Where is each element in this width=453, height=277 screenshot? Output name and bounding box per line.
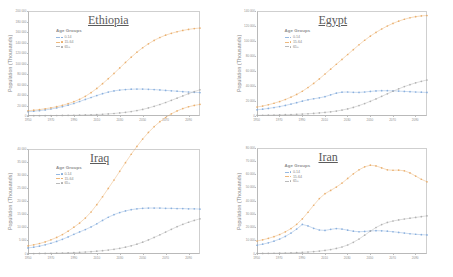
chart-panel-iran: Population (Thousands)Iran010 00020 0003… [227, 139, 453, 277]
series-marker-65+ [84, 114, 86, 116]
series-marker-65+ [62, 252, 64, 254]
series-marker-15-64 [199, 103, 201, 105]
series-marker-65+ [307, 251, 309, 253]
series-marker-15-64 [84, 217, 86, 219]
series-marker-65+ [50, 115, 52, 117]
series-marker-15-64 [329, 189, 331, 191]
legend-marker-dot-icon [290, 171, 292, 173]
series-marker-15-64 [426, 15, 428, 17]
series-marker-65+ [193, 219, 195, 221]
series-marker-0-14 [84, 228, 86, 230]
series-marker-0-14 [403, 91, 405, 93]
series-marker-0-14 [199, 92, 201, 94]
series-marker-0-14 [307, 225, 309, 227]
series-marker-0-14 [159, 207, 161, 209]
series-marker-0-14 [79, 231, 81, 233]
series-marker-15-64 [352, 49, 354, 51]
series-marker-0-14 [96, 222, 98, 224]
series-marker-65+ [392, 220, 394, 222]
series-marker-0-14 [301, 100, 303, 102]
series-marker-0-14 [363, 230, 365, 232]
series-marker-65+ [33, 252, 35, 254]
legend-item-label: 15-64 [293, 175, 302, 179]
series-marker-65+ [73, 251, 75, 253]
legend-marker-dot-icon [290, 180, 292, 182]
series-marker-15-64 [50, 107, 52, 109]
chart-panel-ethiopia: Population (Thousands)Ethiopia020 00040 … [0, 0, 227, 139]
series-marker-15-64 [375, 32, 377, 34]
series-marker-15-64 [119, 170, 121, 172]
series-marker-0-14 [273, 107, 275, 109]
legend-title: Age Groups [56, 165, 82, 170]
series-marker-65+ [176, 225, 178, 227]
legend-line-swatch-icon [56, 37, 60, 38]
series-marker-0-14 [375, 90, 377, 92]
series-marker-0-14 [153, 207, 155, 209]
series-marker-15-64 [33, 243, 35, 245]
series-marker-15-64 [182, 30, 184, 32]
series-marker-15-64 [113, 73, 115, 75]
series-marker-0-14 [278, 238, 280, 240]
legend-item-65+[interactable]: 65+ [56, 181, 82, 186]
series-marker-65+ [176, 97, 178, 99]
series-marker-15-64 [261, 105, 263, 107]
legend-item-65+[interactable]: 65+ [285, 44, 311, 49]
series-marker-0-14 [278, 106, 280, 108]
series-marker-15-64 [318, 78, 320, 80]
series-marker-15-64 [295, 223, 297, 225]
series-marker-15-64 [136, 145, 138, 147]
legend-line-swatch-icon [285, 181, 289, 182]
series-marker-15-64 [414, 175, 416, 177]
series-marker-65+ [352, 241, 354, 243]
series-marker-15-64 [335, 63, 337, 65]
series-marker-65+ [301, 113, 303, 115]
series-marker-15-64 [295, 94, 297, 96]
series-marker-15-64 [67, 103, 69, 105]
series-marker-15-64 [420, 178, 422, 180]
legend-item-label: 65+ [64, 181, 70, 185]
series-marker-0-14 [170, 207, 172, 209]
series-marker-65+ [273, 252, 275, 254]
series-marker-65+ [363, 234, 365, 236]
series-marker-0-14 [159, 89, 161, 91]
legend-line-swatch-icon [285, 37, 289, 38]
legend-item-65+[interactable]: 65+ [56, 44, 82, 49]
series-marker-65+ [165, 231, 167, 233]
series-marker-0-14 [107, 216, 109, 218]
series-line-65+ [28, 218, 200, 253]
series-marker-15-64 [392, 23, 394, 25]
series-marker-0-14 [301, 223, 303, 225]
series-marker-65+ [261, 252, 263, 254]
series-marker-65+ [79, 251, 81, 253]
series-marker-15-64 [79, 98, 81, 100]
series-marker-15-64 [142, 138, 144, 140]
series-marker-0-14 [386, 90, 388, 92]
series-marker-15-64 [329, 68, 331, 70]
series-marker-0-14 [165, 90, 167, 92]
series-marker-0-14 [335, 92, 337, 94]
series-marker-15-64 [375, 165, 377, 167]
series-marker-65+ [278, 114, 280, 116]
series-marker-65+ [358, 105, 360, 107]
legend-line-swatch-icon [56, 42, 60, 43]
series-marker-0-14 [273, 240, 275, 242]
series-marker-65+ [119, 112, 121, 114]
series-marker-15-64 [403, 169, 405, 171]
series-marker-15-64 [125, 161, 127, 163]
series-marker-15-64 [324, 192, 326, 194]
series-marker-0-14 [130, 208, 132, 210]
series-marker-15-64 [261, 238, 263, 240]
legend-item-65+[interactable]: 65+ [285, 179, 311, 184]
legend-marker-dot-icon [290, 41, 292, 43]
series-marker-0-14 [420, 233, 422, 235]
series-marker-15-64 [62, 233, 64, 235]
series-marker-15-64 [148, 43, 150, 45]
series-marker-65+ [56, 115, 58, 117]
series-marker-15-64 [414, 16, 416, 18]
series-marker-0-14 [73, 233, 75, 235]
series-marker-65+ [39, 115, 41, 117]
legend-line-swatch-icon [285, 176, 289, 177]
series-marker-15-64 [125, 62, 127, 64]
legend: Age Groups0-1415-6465+ [56, 28, 82, 49]
series-marker-0-14 [153, 89, 155, 91]
